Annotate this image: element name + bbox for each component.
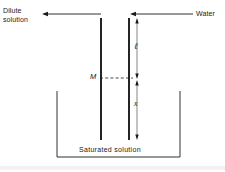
label-saturated-solution: Saturated solution [79, 146, 141, 155]
osmotic-membrane-diagram: Dilute solution Water M ℓ x Saturated so… [0, 0, 225, 172]
label-dilute-solution-line1: Dilute [3, 7, 28, 16]
scan-artifact-band [0, 166, 225, 170]
water-inflow-arrow [130, 12, 193, 16]
label-dilute-solution-line2: solution [3, 16, 28, 25]
dilute-solution-flow-arrow [42, 12, 101, 16]
label-dilute-solution: Dilute solution [3, 7, 28, 24]
label-water: Water [196, 10, 215, 19]
label-membrane-m: M [90, 73, 96, 82]
label-length-ell: ℓ [134, 42, 138, 51]
label-depth-x: x [134, 100, 137, 109]
x-dimension-line [135, 80, 138, 140]
